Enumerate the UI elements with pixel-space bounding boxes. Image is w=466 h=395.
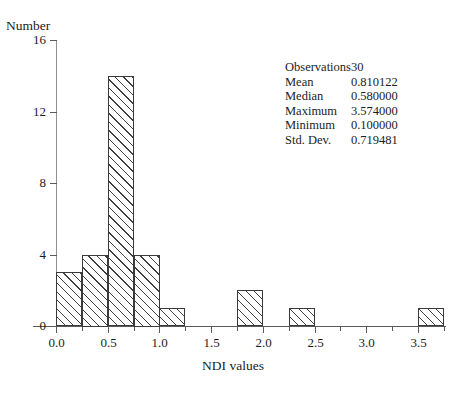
x-tick-major: 2.5 (315, 327, 316, 333)
y-tick-label: 8 (40, 175, 47, 191)
statistics-row: Observations30 (285, 60, 398, 75)
statistic-value: 0.580000 (351, 89, 398, 104)
statistic-label: Median (285, 89, 351, 104)
x-tick-major: 2.0 (263, 327, 264, 333)
x-tick-major: 1.5 (211, 327, 212, 333)
statistic-value: 0.719481 (351, 133, 398, 148)
statistics-table: Observations30Mean0.810122Median0.580000… (285, 60, 398, 148)
statistic-label: Observations (285, 60, 351, 75)
x-tick-minor (82, 327, 83, 331)
histogram-chart: Number 0481216 0.00.51.01.52.02.53.03.5 … (0, 0, 466, 395)
x-tick-minor (185, 327, 186, 331)
y-tick-label: 4 (40, 247, 47, 263)
x-tick-major: 1.0 (159, 327, 160, 333)
histogram-bar (108, 76, 134, 326)
y-tick-label: 12 (33, 104, 46, 120)
statistic-value: 0.100000 (351, 118, 398, 133)
x-tick-major: 3.0 (366, 327, 367, 333)
x-tick-label: 3.0 (358, 335, 374, 351)
statistics-row: Mean0.810122 (285, 75, 398, 90)
statistic-label: Std. Dev. (285, 133, 351, 148)
histogram-bar (237, 290, 263, 326)
statistic-value: 0.810122 (351, 75, 398, 90)
statistic-value: 3.574000 (351, 104, 398, 119)
statistics-row: Median0.580000 (285, 89, 398, 104)
x-tick-label: 0.0 (48, 335, 64, 351)
x-tick-minor (237, 327, 238, 331)
x-axis-title: NDI values (0, 358, 466, 374)
x-tick-label: 1.5 (203, 335, 219, 351)
x-tick-label: 0.5 (100, 335, 116, 351)
histogram-bar (159, 308, 185, 326)
statistics-box: Observations30Mean0.810122Median0.580000… (285, 60, 398, 148)
x-tick-major: 0.5 (108, 327, 109, 333)
y-tick-label: 16 (33, 32, 46, 48)
statistics-row: Minimum0.100000 (285, 118, 398, 133)
histogram-bar (289, 308, 315, 326)
statistics-row: Maximum3.574000 (285, 104, 398, 119)
x-tick-major: 0.0 (56, 327, 57, 333)
statistics-row: Std. Dev.0.719481 (285, 133, 398, 148)
histogram-bar (418, 308, 444, 326)
x-tick-label: 2.0 (255, 335, 271, 351)
x-tick-label: 1.0 (151, 335, 167, 351)
x-tick-minor (289, 327, 290, 331)
x-tick-label: 3.5 (410, 335, 426, 351)
statistic-label: Minimum (285, 118, 351, 133)
statistic-value: 30 (351, 60, 398, 75)
x-tick-minor (444, 327, 445, 331)
x-tick-minor (392, 327, 393, 331)
x-tick-minor (134, 327, 135, 331)
x-tick-label: 2.5 (307, 335, 323, 351)
x-tick-minor (340, 327, 341, 331)
y-tick-label: 0 (40, 318, 47, 334)
x-tick-major: 3.5 (418, 327, 419, 333)
histogram-bar (82, 255, 108, 327)
statistic-label: Maximum (285, 104, 351, 119)
histogram-bar (56, 272, 82, 326)
statistic-label: Mean (285, 75, 351, 90)
histogram-bar (134, 255, 160, 327)
